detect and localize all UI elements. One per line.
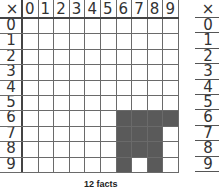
grid-horizontal-line	[0, 110, 179, 111]
row-header: 9	[0, 156, 22, 171]
grid-vertical-line	[116, 0, 117, 172]
shaded-fact-cell	[116, 157, 133, 173]
shaded-fact-cell	[147, 126, 164, 142]
column-header: 8	[147, 1, 163, 18]
shaded-fact-cell	[147, 110, 164, 126]
shaded-fact-cell	[116, 110, 133, 126]
grid-vertical-line	[162, 0, 163, 172]
shaded-fact-cell	[162, 110, 179, 126]
row-header: 6	[0, 109, 22, 124]
row-header: 3	[0, 63, 22, 78]
row-header: 7	[0, 125, 22, 140]
column-header: 1	[38, 1, 54, 18]
side-divider	[195, 171, 219, 172]
grid-horizontal-line	[0, 157, 179, 158]
shaded-fact-cell	[116, 126, 133, 142]
grid-vertical-line	[131, 0, 132, 172]
grid-vertical-line	[147, 0, 148, 172]
grid-horizontal-line	[0, 17, 179, 19]
grid-vertical-line	[21, 0, 23, 172]
row-header: 4	[0, 79, 22, 94]
row-header: 5	[0, 94, 22, 109]
grid-horizontal-line	[0, 141, 179, 142]
column-header: 2	[53, 1, 69, 18]
shaded-fact-cell	[131, 141, 148, 157]
column-header: 6	[116, 1, 132, 18]
column-header: 7	[131, 1, 147, 18]
grid-horizontal-line	[0, 64, 179, 65]
grid-horizontal-line	[0, 80, 179, 81]
column-header: 3	[69, 1, 85, 18]
column-header: 9	[162, 1, 178, 18]
column-header: 4	[84, 1, 100, 18]
grid-horizontal-line	[0, 95, 179, 96]
shaded-fact-cell	[131, 110, 148, 126]
grid-horizontal-line	[0, 126, 179, 127]
row-header: 2	[0, 48, 22, 63]
shaded-fact-cell	[147, 157, 164, 173]
shaded-fact-cell	[147, 141, 164, 157]
grid-vertical-line	[69, 0, 70, 172]
grid-vertical-line	[84, 0, 85, 172]
grid-horizontal-line	[0, 49, 179, 50]
grid-horizontal-line	[0, 172, 179, 173]
row-header: 8	[0, 140, 22, 155]
shaded-fact-cell	[131, 126, 148, 142]
shaded-fact-cell	[116, 141, 133, 157]
grid-vertical-line	[38, 0, 39, 172]
column-header: 5	[100, 1, 116, 18]
grid-vertical-line	[53, 0, 54, 172]
grid-vertical-line	[100, 0, 101, 172]
row-header: 0	[0, 17, 22, 32]
row-header: 1	[0, 32, 22, 47]
grid-horizontal-line	[0, 33, 179, 34]
facts-caption: 12 facts	[84, 179, 118, 189]
grid-vertical-line	[178, 0, 179, 172]
column-header: 0	[22, 1, 38, 18]
